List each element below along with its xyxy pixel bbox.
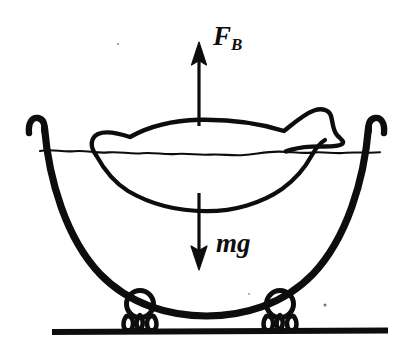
scan-speck-marks	[117, 43, 327, 307]
claw-foot-left	[124, 291, 157, 331]
floating-object	[92, 109, 343, 211]
ground-line	[52, 331, 388, 333]
buoyant-force-label: FB	[213, 23, 243, 53]
water-surface-line	[40, 150, 380, 155]
diagram-canvas	[0, 0, 413, 354]
buoyant-force-subscript: B	[231, 35, 243, 54]
buoyant-force-arrow	[192, 42, 207, 126]
weight-label: mg	[216, 230, 251, 257]
buoyant-force-symbol: F	[213, 21, 231, 51]
weight-arrow	[191, 193, 207, 270]
physics-diagram-figure: FB mg	[0, 0, 413, 354]
